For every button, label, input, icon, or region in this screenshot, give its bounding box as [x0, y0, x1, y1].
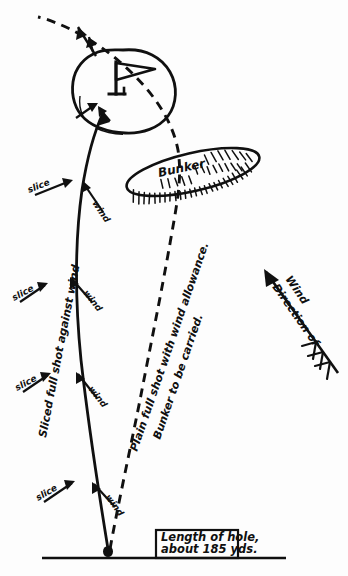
slice-label-1: slice [26, 177, 51, 195]
bunker [122, 138, 264, 210]
diagram-canvas: Bunker [0, 0, 348, 576]
green-slice-head [87, 103, 98, 112]
hole-length-box: Length of hole, about 185 yds. [156, 530, 259, 558]
wind-label-3: wind [86, 384, 109, 410]
annotation-pair-1: slice wind [26, 177, 113, 225]
hole-length-line2: about 185 yds. [161, 542, 258, 556]
sliced-shot-label: Sliced full shot against wind [36, 263, 82, 438]
plain-shot-path [38, 17, 180, 549]
annotation-pair-2: slice wind [10, 277, 104, 314]
slice-arrow-1-head [62, 178, 73, 188]
plain-shot-dashes [38, 17, 180, 549]
wind-label-1: wind [90, 199, 112, 225]
annotation-pair-4: slice wind [34, 480, 126, 518]
wind-label-4: wind [103, 492, 126, 518]
golf-hole-diagram: Bunker [0, 0, 348, 576]
annotation-pair-3: slice wind [13, 372, 109, 410]
flag-pennant [116, 63, 155, 80]
wind-direction-fletching [302, 342, 330, 379]
wind-label-2: wind [81, 288, 104, 314]
